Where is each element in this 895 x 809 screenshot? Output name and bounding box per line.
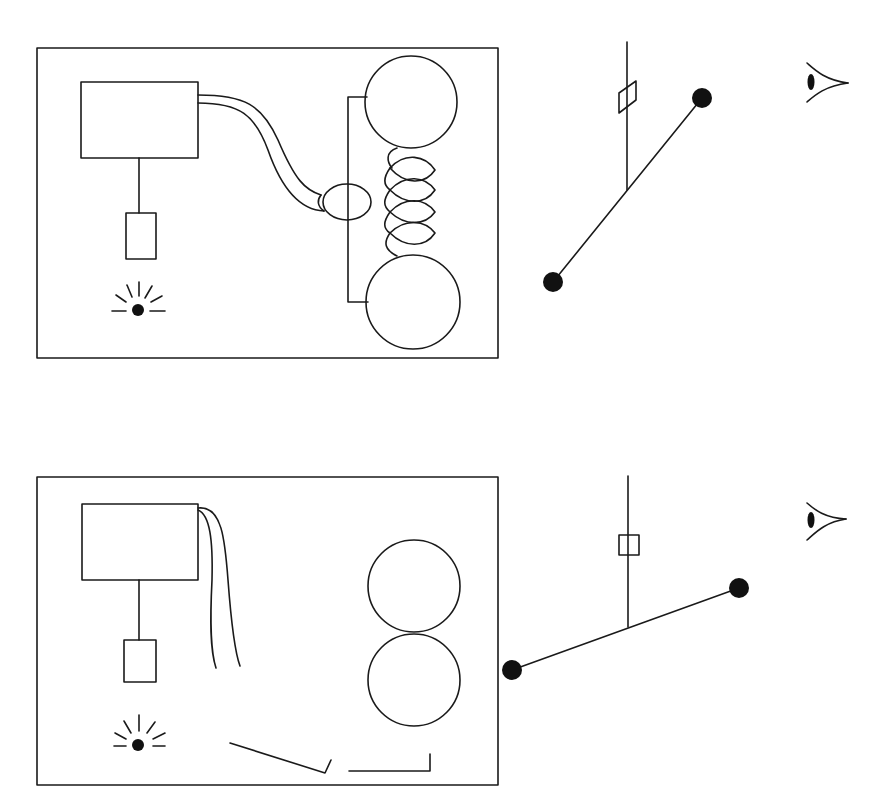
bottom-lever-assembly bbox=[502, 476, 846, 680]
lower-roller bbox=[368, 634, 460, 726]
floor-bracket-left bbox=[230, 743, 331, 773]
top-panel-frame bbox=[37, 48, 498, 358]
floor-bracket-right bbox=[349, 754, 430, 771]
wire-pair bbox=[198, 95, 324, 211]
eye-icon bbox=[807, 503, 846, 540]
weight-ball-right bbox=[692, 88, 712, 108]
marker-flag bbox=[619, 535, 639, 555]
diagram-canvas bbox=[0, 0, 895, 809]
pendant-weight bbox=[126, 213, 156, 259]
top-lever-assembly bbox=[543, 42, 848, 292]
frame-bracket bbox=[348, 97, 368, 302]
pendant-weight bbox=[124, 640, 156, 682]
control-box bbox=[82, 504, 198, 580]
lamp-icon bbox=[114, 715, 165, 751]
weight-ball-left bbox=[502, 660, 522, 680]
lever-arm bbox=[512, 588, 739, 670]
lamp-icon bbox=[112, 282, 165, 316]
upper-roller bbox=[365, 56, 457, 148]
control-box bbox=[81, 82, 198, 158]
loose-wires bbox=[198, 508, 240, 668]
lower-roller bbox=[366, 255, 460, 349]
weight-ball-right bbox=[729, 578, 749, 598]
bottom-panel bbox=[37, 477, 498, 785]
coil-spring bbox=[385, 148, 435, 256]
electromagnet-ring bbox=[323, 184, 371, 220]
weight-ball-left bbox=[543, 272, 563, 292]
bottom-panel-frame bbox=[37, 477, 498, 785]
top-panel bbox=[37, 48, 498, 358]
upper-roller bbox=[368, 540, 460, 632]
eye-icon bbox=[807, 63, 848, 102]
